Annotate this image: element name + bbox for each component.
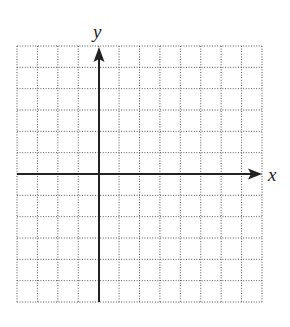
coordinate-plane: x y — [0, 0, 290, 327]
y-axis-label: y — [91, 21, 102, 42]
x-axis-label: x — [267, 164, 277, 185]
